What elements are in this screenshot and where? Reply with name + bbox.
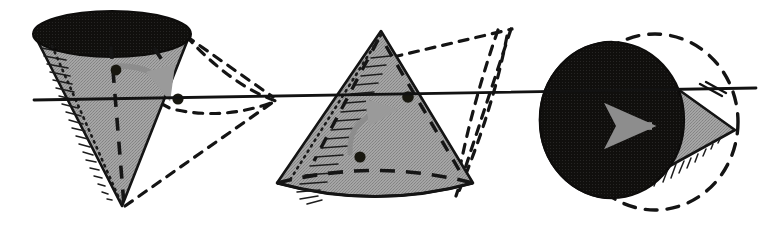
- panel-middle: [277, 29, 512, 204]
- dot-lower: [354, 151, 365, 162]
- cone-end-on: [540, 42, 735, 198]
- figure-canvas: [0, 0, 772, 230]
- panel-left: [33, 11, 276, 206]
- dot-upper: [111, 65, 122, 76]
- cone-upright: [277, 31, 473, 204]
- cone-base-face-black: [540, 42, 684, 198]
- panel-right: [540, 34, 738, 210]
- cone-rotation-diagram: [0, 0, 772, 230]
